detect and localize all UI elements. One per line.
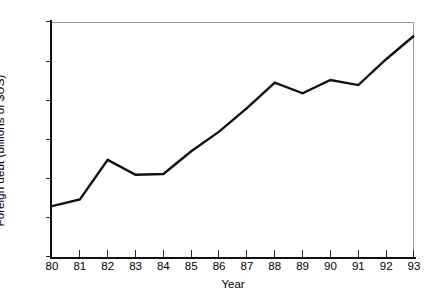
data-series-layer <box>0 0 447 301</box>
line-chart-figure: Foreign debt (billions of $US) 010203040… <box>0 0 447 301</box>
x-axis-title: Year <box>52 278 414 290</box>
foreign-debt-line <box>52 36 414 206</box>
